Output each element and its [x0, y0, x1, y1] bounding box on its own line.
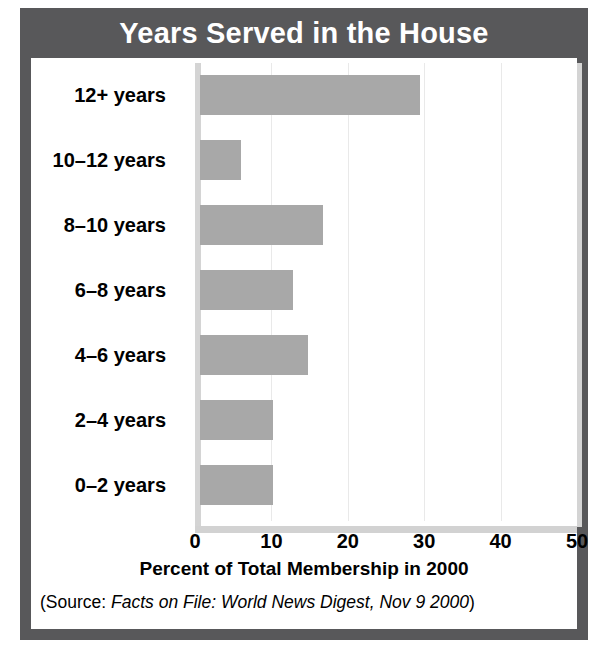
y-axis-label: 8–10 years [64, 205, 166, 245]
bar [200, 75, 420, 115]
page-title: Years Served in the House [119, 17, 488, 50]
x-axis-tick: 40 [489, 530, 511, 553]
x-axis-title: Percent of Total Membership in 2000 [31, 558, 577, 580]
x-axis-tick: 0 [189, 530, 200, 553]
y-axis-label: 10–12 years [53, 140, 166, 180]
bar [200, 335, 308, 375]
y-axis-label: 12+ years [74, 75, 166, 115]
x-axis-tick: 10 [260, 530, 282, 553]
source-citation: Facts on File: World News Digest, Nov 9 … [111, 592, 469, 612]
x-axis-tick: 30 [413, 530, 435, 553]
chart-plot-region: 12+ years10–12 years8–10 years6–8 years4… [31, 58, 577, 553]
plot-area [195, 69, 577, 527]
chart-figure: Years Served in the House 12+ years10–12… [20, 8, 588, 640]
y-axis-tick-labels: 12+ years10–12 years8–10 years6–8 years4… [31, 58, 176, 525]
gridline-30 [424, 63, 425, 521]
chart-title-bar: Years Served in the House [20, 8, 588, 58]
gridline-20 [348, 63, 349, 521]
source-suffix: ) [469, 592, 475, 612]
source-note: (Source: Facts on File: World News Diges… [40, 592, 475, 613]
y-axis-label: 6–8 years [75, 270, 166, 310]
source-prefix: (Source: [40, 592, 111, 612]
x-axis-tick: 20 [337, 530, 359, 553]
bar [200, 465, 273, 505]
bar [200, 400, 273, 440]
plot-right-edge [577, 63, 582, 527]
bar [200, 140, 241, 180]
y-axis-label: 2–4 years [75, 400, 166, 440]
x-axis-tick: 50 [566, 530, 588, 553]
y-axis-label: 4–6 years [75, 335, 166, 375]
y-axis-label: 0–2 years [75, 465, 166, 505]
gridline-40 [501, 63, 502, 521]
x-axis-tick-labels: 01020304050 [195, 530, 577, 556]
bar [200, 270, 293, 310]
chart-panel: 12+ years10–12 years8–10 years6–8 years4… [31, 58, 577, 629]
bar [200, 205, 323, 245]
